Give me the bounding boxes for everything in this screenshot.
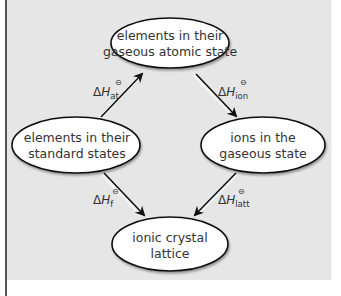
node-ionic-crystal-lattice-line2: lattice bbox=[151, 246, 190, 261]
standard-symbol-ionisation: ⊖ bbox=[240, 78, 247, 87]
node-ionic-crystal-lattice-line1: ionic crystal bbox=[132, 230, 207, 245]
standard-symbol-lattice: ⊖ bbox=[238, 187, 245, 196]
label-enthalpy-lattice: ΔHlatt bbox=[218, 193, 250, 209]
standard-symbol-formation: ⊖ bbox=[112, 187, 119, 196]
born-haber-cycle-diagram: ΔHat ⊖ ΔHion ⊖ ΔHf ⊖ ΔHlatt ⊖ elements i… bbox=[0, 0, 341, 296]
node-standard-states bbox=[12, 117, 140, 173]
node-gaseous-atomic-state-line2: gaseous atomic state bbox=[103, 44, 238, 59]
node-gaseous-ions bbox=[201, 117, 325, 173]
node-gaseous-ions-line2: gaseous state bbox=[219, 146, 307, 161]
node-standard-states-line1: elements in their bbox=[24, 130, 131, 145]
label-enthalpy-atomisation: ΔHat bbox=[93, 85, 119, 101]
node-standard-states-line2: standard states bbox=[28, 146, 126, 161]
node-gaseous-atomic-state-line1: elements in their bbox=[117, 28, 224, 43]
label-enthalpy-ionisation: ΔHion bbox=[218, 85, 248, 101]
standard-symbol-atomisation: ⊖ bbox=[115, 78, 122, 87]
node-gaseous-ions-line1: ions in the bbox=[230, 130, 296, 145]
node-gaseous-atomic-state bbox=[111, 18, 229, 68]
